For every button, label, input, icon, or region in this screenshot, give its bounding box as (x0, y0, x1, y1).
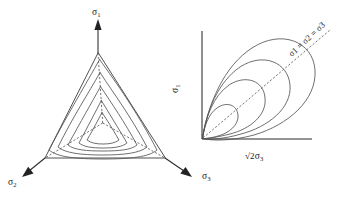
pi-axis-label-sigma1: σ1 (92, 8, 101, 18)
pi-axis-sigma1 (94, 19, 101, 53)
figure-canvas (0, 0, 357, 201)
pi-dashed-radii (45, 53, 165, 158)
pi-plane-panel (22, 19, 192, 177)
pi-axis-label-sigma3: σ3 (202, 172, 211, 182)
pi-axis-sigma2 (22, 158, 45, 177)
figure-root: σ1 σ2 σ3 σ1 √2σ3 σ1 = σ2 = σ3 (0, 0, 357, 201)
pi-contour-4 (79, 101, 127, 149)
pi-contour-5 (87, 113, 119, 145)
pi-axis-label-sigma2: σ2 (8, 178, 17, 188)
meridian-curve-3 (203, 80, 266, 139)
meridian-hydrostatic-line (203, 30, 330, 138)
meridian-axis-label-sqrt2-sigma3: √2σ3 (245, 152, 263, 162)
meridian-yield-curves (203, 39, 316, 140)
pi-axis-sigma3 (165, 158, 192, 177)
meridian-plane-panel (202, 30, 330, 140)
pi-triangle-boundary (45, 53, 165, 158)
pi-yield-contours (49, 60, 157, 160)
meridian-axis-label-sigma1: σ1 (171, 84, 181, 93)
